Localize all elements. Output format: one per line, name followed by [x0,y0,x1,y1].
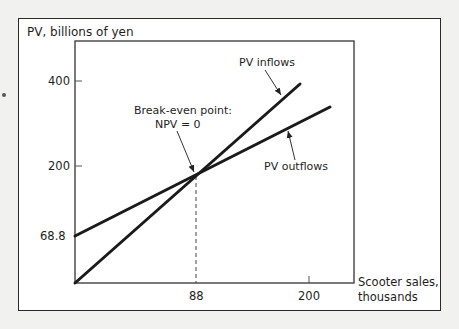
y-tick-label-68-8: 68.8 [40,229,66,243]
y-tick-label-200: 200 [48,159,70,173]
x-tick-label-88: 88 [189,289,204,303]
x-axis-label-line1: Scooter sales, [358,275,439,289]
y-axis-label: PV, billions of yen [27,25,134,39]
x-axis-label-line2: thousands [358,290,418,304]
breakeven-label-line1: Break-even point: [134,104,232,118]
breakeven-arrow [177,131,194,172]
outflows-arrow [288,131,295,160]
pv-outflows-label: PV outflows [264,160,328,174]
x-tick-label-200: 200 [298,289,320,303]
inflows-arrow [265,70,281,95]
y-tick-label-400: 400 [48,74,70,88]
pv-inflows-label: PV inflows [239,56,295,70]
breakeven-label-line2: NPV = 0 [155,118,201,132]
